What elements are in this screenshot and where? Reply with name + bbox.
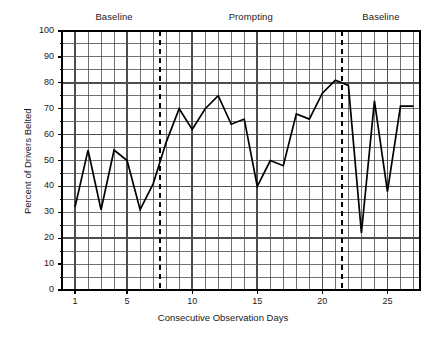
- chart-figure: Baseline Prompting Baseline 100908070605…: [0, 0, 446, 337]
- x-tick-label: 1: [63, 296, 87, 306]
- y-tick-label: 0: [28, 284, 54, 294]
- phase-label-baseline-1: Baseline: [95, 11, 132, 22]
- x-tick-label: 25: [375, 296, 399, 306]
- x-axis-title: Consecutive Observation Days: [0, 312, 446, 323]
- y-tick-label: 10: [28, 258, 54, 268]
- phase-label-baseline-2: Baseline: [362, 11, 399, 22]
- y-tick-label: 90: [28, 51, 54, 61]
- x-tick-label: 20: [310, 296, 334, 306]
- minor-gridlines: [62, 31, 420, 290]
- x-tick-label: 10: [180, 296, 204, 306]
- x-tick-label: 5: [115, 296, 139, 306]
- phase-label-prompting: Prompting: [229, 11, 273, 22]
- x-tick-label: 15: [245, 296, 269, 306]
- y-tick-label: 20: [28, 232, 54, 242]
- y-tick-label: 100: [28, 25, 54, 35]
- y-tick-marks: [58, 31, 62, 290]
- y-tick-label: 80: [28, 77, 54, 87]
- line-chart-canvas: [0, 0, 446, 337]
- y-axis-title: Percent of Drivers Belted: [22, 108, 33, 214]
